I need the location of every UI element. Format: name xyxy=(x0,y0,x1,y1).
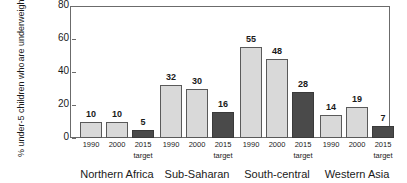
bar-value-label: 7 xyxy=(372,114,394,123)
y-axis-tick-label: 20 xyxy=(58,99,69,109)
x-axis-tick-sublabel: target xyxy=(210,152,236,160)
x-axis-tick-label: 2015target xyxy=(370,140,396,160)
x-axis-tick-label: 2015target xyxy=(290,140,316,160)
bar[interactable] xyxy=(212,112,234,138)
bar-value-label: 30 xyxy=(186,77,208,86)
x-axis-tick-label: 2000 xyxy=(264,140,290,149)
y-axis-title-line-2: are underweight xyxy=(16,0,26,61)
x-axis-tick-label: 2015target xyxy=(210,140,236,160)
y-axis-title: % under-5 children who are underweight xyxy=(7,7,35,147)
bar-group: 554828 xyxy=(238,6,316,138)
x-axis-tick-label: 1990 xyxy=(78,140,104,149)
y-axis-tick-label: 40 xyxy=(58,66,69,76)
region-label: South-central xyxy=(238,168,316,180)
region-label: Sub-Saharan xyxy=(158,168,236,180)
x-axis-labels: 199020002015targetNorthern Africa1990200… xyxy=(70,140,390,183)
bar-value-label: 55 xyxy=(240,35,262,44)
region-label: Northern Africa xyxy=(78,168,156,180)
region-label: Western Asia xyxy=(318,168,396,180)
bar-chart: % under-5 children who are underweight 0… xyxy=(0,0,407,183)
bar-group: 323016 xyxy=(158,6,236,138)
bar[interactable] xyxy=(346,107,368,138)
y-axis-title-line-1: % under-5 children who xyxy=(16,62,26,157)
bar-group: 10105 xyxy=(78,6,156,138)
bar[interactable] xyxy=(240,47,262,138)
bar[interactable] xyxy=(80,122,102,139)
x-axis-tick-sublabel: target xyxy=(370,152,396,160)
x-axis-tick-label: 2000 xyxy=(104,140,130,149)
bar-value-label: 10 xyxy=(80,110,102,119)
bar-value-label: 16 xyxy=(212,100,234,109)
bar[interactable] xyxy=(372,126,394,138)
y-axis-tick-label: 60 xyxy=(58,33,69,43)
bar-value-label: 14 xyxy=(320,103,342,112)
bar[interactable] xyxy=(186,89,208,139)
bar-group: 14197 xyxy=(318,6,396,138)
bar[interactable] xyxy=(106,122,128,139)
y-axis-tick-label: 0 xyxy=(63,132,69,142)
bar[interactable] xyxy=(132,130,154,138)
bar[interactable] xyxy=(320,115,342,138)
y-axis-tick-label: 80 xyxy=(58,0,69,10)
x-axis-tick-label: 2000 xyxy=(184,140,210,149)
x-axis-tick-sublabel: target xyxy=(130,152,156,160)
bars-layer: 1010532301655482814197 xyxy=(70,6,390,138)
bar-value-label: 48 xyxy=(266,47,288,56)
bar[interactable] xyxy=(160,85,182,138)
x-axis-tick-label: 2000 xyxy=(344,140,370,149)
x-axis-tick-label: 1990 xyxy=(318,140,344,149)
x-axis-tick-label: 1990 xyxy=(158,140,184,149)
bar-value-label: 28 xyxy=(292,80,314,89)
bar[interactable] xyxy=(266,59,288,138)
bar-value-label: 19 xyxy=(346,95,368,104)
x-axis-tick-label: 1990 xyxy=(238,140,264,149)
x-axis-tick-sublabel: target xyxy=(290,152,316,160)
bar[interactable] xyxy=(292,92,314,138)
x-axis-tick-label: 2015target xyxy=(130,140,156,160)
bar-value-label: 5 xyxy=(132,118,154,127)
bar-value-label: 10 xyxy=(106,110,128,119)
bar-value-label: 32 xyxy=(160,73,182,82)
